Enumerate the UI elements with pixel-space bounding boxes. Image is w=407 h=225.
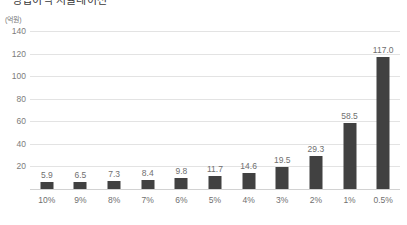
bar-value-label: 5.9 [41, 170, 53, 180]
bar[interactable] [108, 181, 121, 189]
bar-group: 117.00.5% [366, 31, 400, 189]
bar[interactable] [242, 173, 255, 189]
x-axis-tick-label: 7% [142, 195, 154, 205]
bar[interactable] [74, 182, 87, 189]
bar[interactable] [175, 178, 188, 189]
y-axis-unit-label: (억원) [5, 14, 22, 24]
bar-chart: (억원) 14012010080604020 5.910%6.59%7.38%8… [0, 9, 407, 225]
bar-value-label: 29.3 [308, 144, 325, 154]
y-axis-tick-label: 80 [17, 94, 26, 104]
bar[interactable] [40, 182, 53, 189]
page-title: 영업이익 시뮬레이션 [12, 0, 107, 7]
y-axis-tick-label: 20 [17, 161, 26, 171]
bar-value-label: 8.4 [142, 168, 154, 178]
bar-value-label: 11.7 [207, 164, 223, 174]
bar-group: 29.32% [299, 31, 333, 189]
x-axis-tick-label: 3% [276, 195, 288, 205]
bar[interactable] [309, 156, 322, 189]
x-axis-tick-label: 9% [74, 195, 86, 205]
y-axis-tick-label: 40 [17, 139, 26, 149]
chart-title-strip: 영업이익 시뮬레이션 [0, 0, 407, 9]
bar-group: 11.75% [198, 31, 232, 189]
bars-layer: 5.910%6.59%7.38%8.47%9.86%11.75%14.64%19… [30, 31, 400, 189]
bar-group: 5.910% [30, 31, 64, 189]
bar[interactable] [276, 167, 289, 189]
bar-value-label: 9.8 [175, 166, 187, 176]
x-axis-tick-label: 2% [310, 195, 322, 205]
plot-area: 14012010080604020 5.910%6.59%7.38%8.47%9… [30, 31, 400, 189]
bar-group: 8.47% [131, 31, 165, 189]
bar-group: 14.64% [232, 31, 266, 189]
x-axis-tick-label: 0.5% [373, 195, 392, 205]
bar-group: 58.51% [333, 31, 367, 189]
x-axis-tick-label: 5% [209, 195, 221, 205]
bar-value-label: 19.5 [274, 155, 291, 165]
bar-group: 6.59% [64, 31, 98, 189]
x-axis-tick-label: 1% [343, 195, 355, 205]
bar[interactable] [141, 180, 154, 189]
x-axis-tick-label: 10% [38, 195, 55, 205]
bar-value-label: 14.6 [240, 161, 257, 171]
x-axis-tick-label: 4% [242, 195, 254, 205]
y-axis-tick-label: 100 [12, 71, 26, 81]
x-axis-tick-label: 8% [108, 195, 120, 205]
bar-value-label: 7.3 [108, 169, 120, 179]
bar[interactable] [343, 123, 356, 189]
bar-group: 19.53% [265, 31, 299, 189]
bar-value-label: 58.5 [341, 111, 358, 121]
bar[interactable] [208, 176, 221, 189]
bar-group: 7.38% [97, 31, 131, 189]
bar-value-label: 117.0 [373, 45, 394, 55]
x-axis-tick-label: 6% [175, 195, 187, 205]
y-axis-tick-label: 120 [12, 49, 26, 59]
bar-group: 9.86% [165, 31, 199, 189]
bar-value-label: 6.5 [75, 170, 87, 180]
bar[interactable] [377, 57, 390, 189]
x-axis-line [30, 189, 400, 190]
y-axis-tick-label: 140 [12, 26, 26, 36]
y-axis-tick-label: 60 [17, 116, 26, 126]
